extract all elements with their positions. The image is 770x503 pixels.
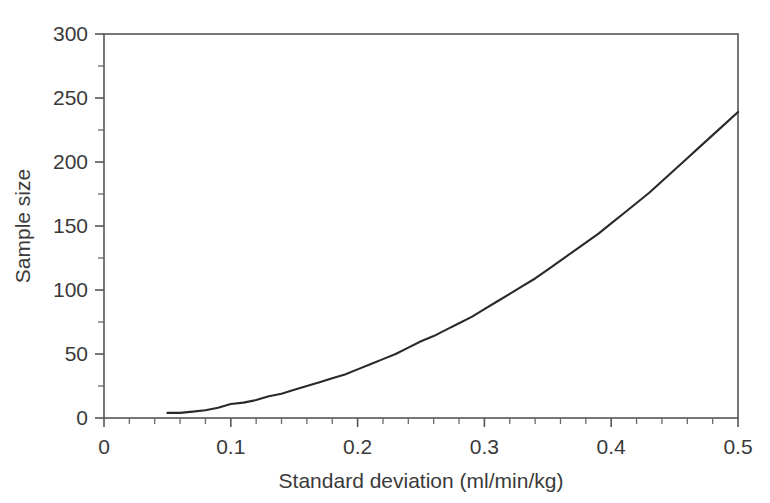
y-tick-label: 200 [53, 150, 88, 173]
figure-container: 00.10.20.30.40.5 050100150200250300 Stan… [0, 0, 770, 503]
x-tick-label: 0.5 [723, 435, 752, 458]
y-tick-label: 300 [53, 22, 88, 45]
x-axis-title: Standard deviation (ml/min/kg) [279, 469, 564, 492]
x-tick-label: 0 [98, 435, 110, 458]
y-axis-title: Sample size [11, 169, 34, 283]
y-axis-ticks [95, 34, 104, 418]
x-tick-label: 0.2 [343, 435, 372, 458]
line-chart: 00.10.20.30.40.5 050100150200250300 Stan… [0, 0, 770, 503]
y-tick-label: 150 [53, 214, 88, 237]
y-tick-label: 0 [76, 406, 88, 429]
x-tick-label: 0.3 [470, 435, 499, 458]
x-axis-ticks [104, 418, 738, 427]
y-tick-label: 100 [53, 278, 88, 301]
x-tick-label: 0.1 [216, 435, 245, 458]
y-tick-label: 50 [65, 342, 88, 365]
x-tick-label: 0.4 [597, 435, 627, 458]
x-axis-tick-labels: 00.10.20.30.40.5 [98, 435, 752, 458]
data-series-line [167, 112, 738, 413]
plot-frame [104, 34, 738, 418]
y-axis-tick-labels: 050100150200250300 [53, 22, 88, 429]
y-tick-label: 250 [53, 86, 88, 109]
